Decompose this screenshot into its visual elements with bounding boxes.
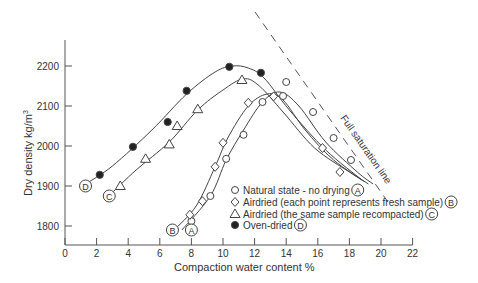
tag-B: B [166, 224, 178, 236]
data-point-C [237, 75, 247, 84]
y-tick-label: 2100 [37, 101, 60, 112]
tag-D: D [294, 219, 306, 231]
compaction-chart: 024681012141618202218001900200021002200 … [0, 0, 478, 283]
svg-text:D: D [297, 221, 304, 231]
svg-text:C: C [106, 192, 113, 202]
data-point-B [219, 138, 227, 147]
data-point-A [207, 193, 214, 200]
curve-tags: ABCD [80, 180, 198, 236]
y-tick-label: 1900 [37, 181, 60, 192]
x-tick-label: 14 [281, 248, 293, 259]
x-tick-label: 16 [312, 248, 324, 259]
tag-C: C [103, 190, 115, 202]
data-point-A [259, 99, 266, 106]
x-tick-label: 12 [249, 248, 261, 259]
tag-C: C [426, 208, 438, 220]
data-point-A [310, 109, 317, 116]
svg-text:D: D [82, 182, 89, 192]
x-tick-label: 18 [344, 248, 356, 259]
x-tick-label: 6 [157, 248, 163, 259]
svg-text:B: B [169, 226, 175, 236]
svg-text:A: A [355, 186, 361, 196]
tag-B: B [445, 196, 457, 208]
legend-item: Oven-dried [243, 220, 292, 231]
data-point-A [330, 135, 337, 142]
x-tick-label: 8 [189, 248, 195, 259]
data-point-D [183, 87, 190, 94]
data-point-D [164, 118, 171, 125]
data-point-C [193, 104, 203, 113]
data-point-A [283, 79, 290, 86]
data-point-B [336, 168, 344, 177]
x-tick-label: 10 [217, 248, 229, 259]
data-point-D [257, 69, 264, 76]
svg-text:B: B [448, 198, 454, 208]
data-point-C [172, 121, 182, 130]
y-axis-label: Dry density kg/m3 [22, 110, 34, 196]
data-point-B [211, 162, 219, 171]
full-saturation-line [255, 12, 390, 205]
tag-D: D [80, 180, 92, 192]
data-point-D [129, 143, 136, 150]
saturation-label: Full saturation line [338, 113, 394, 186]
svg-text:A: A [188, 226, 194, 236]
data-point-C [141, 154, 151, 163]
legend-item: Natural state - no drying [243, 185, 350, 196]
x-tick-label: 20 [375, 248, 387, 259]
x-tick-label: 0 [62, 248, 68, 259]
data-point-D [226, 63, 233, 70]
data-point-B [244, 98, 252, 107]
y-tick-label: 2200 [37, 61, 60, 72]
legend-marker-A [232, 187, 239, 194]
x-axis-label: Compaction water content % [174, 261, 315, 273]
legend-item: Airdried (each point represents fresh sa… [243, 197, 443, 208]
data-point-C [164, 139, 174, 148]
y-tick-label: 1800 [37, 221, 60, 232]
x-tick-label: 2 [94, 248, 100, 259]
data-point-A [240, 131, 247, 138]
data-point-B [198, 197, 206, 206]
data-point-B [319, 144, 327, 153]
data-point-A [223, 155, 230, 162]
tag-A: A [352, 184, 364, 196]
legend-marker-B [231, 198, 239, 207]
legend-marker-C [230, 209, 240, 218]
svg-text:C: C [428, 210, 435, 220]
legend: Natural state - no dryingAAirdried (each… [230, 184, 457, 231]
legend-item: Airdried (the same sample recompacted) [243, 209, 424, 220]
x-tick-label: 4 [125, 248, 131, 259]
curve-C [111, 79, 365, 194]
data-point-A [347, 157, 354, 164]
y-tick-label: 2000 [37, 141, 60, 152]
legend-marker-D [231, 221, 238, 228]
data-point-C [115, 181, 125, 190]
data-point-D [96, 171, 103, 178]
data-point-A [280, 93, 287, 100]
x-tick-label: 22 [407, 248, 419, 259]
tag-A: A [185, 224, 197, 236]
